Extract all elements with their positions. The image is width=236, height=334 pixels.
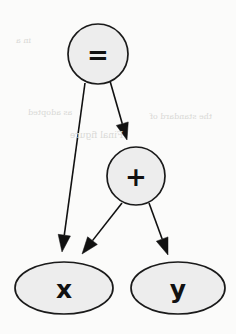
nodes-layer: =+xy <box>15 24 225 314</box>
node-label-plus: + <box>125 162 147 192</box>
arrowhead-plus-to-y <box>156 237 168 255</box>
ast-graph: =+xy <box>0 0 236 334</box>
node-eq[interactable]: = <box>68 24 128 84</box>
arrowhead-eq-to-plus <box>116 122 128 140</box>
edge-eq-to-plus <box>110 81 122 124</box>
node-label-eq: = <box>87 40 109 70</box>
node-plus[interactable]: + <box>107 147 165 205</box>
node-label-x: x <box>56 275 72 304</box>
arrowhead-plus-to-x <box>82 237 97 254</box>
edge-plus-to-y <box>149 203 162 239</box>
edge-eq-to-x <box>64 83 85 235</box>
ast-figure: =+xy in aas adoptedthe standard ofFinal … <box>0 0 236 334</box>
arrowhead-eq-to-x <box>58 234 70 252</box>
edge-plus-to-x <box>92 203 122 241</box>
node-y[interactable]: y <box>131 262 225 314</box>
node-label-y: y <box>170 275 186 304</box>
node-x[interactable]: x <box>15 262 113 314</box>
